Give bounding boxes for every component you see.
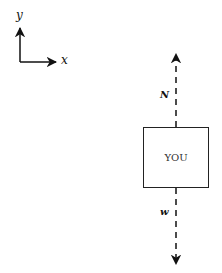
coordinate-axes — [20, 28, 56, 62]
you-label: YOU — [164, 152, 187, 163]
down-direction-label: w — [160, 206, 169, 217]
you-box: YOU — [143, 127, 209, 188]
north-label: N — [160, 89, 169, 100]
x-axis-label: x — [61, 53, 68, 67]
y-axis-label: y — [16, 8, 23, 22]
